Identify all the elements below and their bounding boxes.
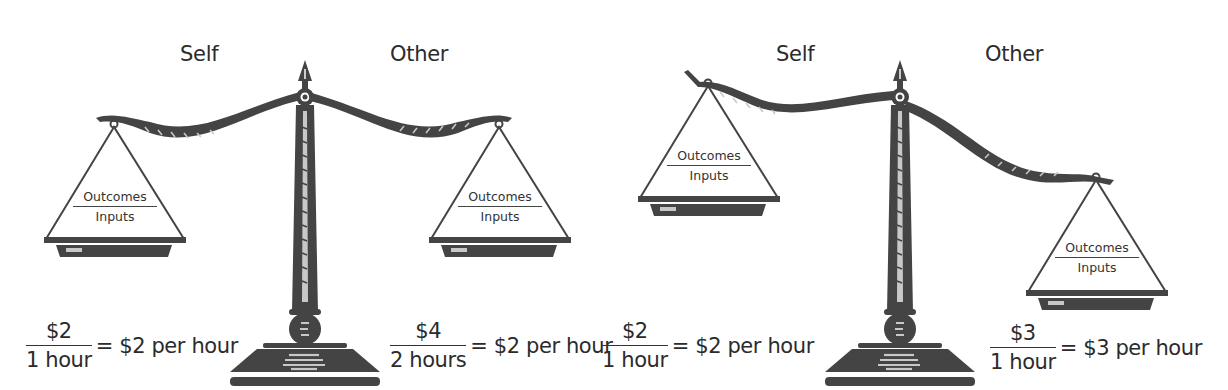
equation-fraction: $2 1 hour [602,318,668,373]
left-self-pan-ratio: Outcomes Inputs [73,189,157,224]
right-self-equation: $2 1 hour = $2 per hour [602,318,814,373]
left-other-equation: $4 2 hours = $2 per hour [390,318,612,373]
pan-denominator: Inputs [73,207,157,224]
pan-numerator: Outcomes [73,189,157,207]
equation-denominator: 2 hours [390,346,466,373]
left-scale-beam [96,92,300,138]
pan-numerator: Outcomes [667,148,751,166]
pan-numerator: Outcomes [1055,240,1139,258]
right-self-label: Self [776,42,814,66]
right-scale [825,60,975,386]
left-self-label: Self [180,42,218,66]
equation-result: = $2 per hour [672,334,814,358]
equation-denominator: 1 hour [602,346,668,373]
equation-fraction: $2 1 hour [26,318,92,373]
equation-fraction: $3 1 hour [990,320,1056,375]
equation-result: = $3 per hour [1060,336,1202,360]
right-self-pan-ratio: Outcomes Inputs [667,148,751,183]
pan-denominator: Inputs [667,166,751,183]
pan-numerator: Outcomes [458,189,542,207]
equation-result: = $2 per hour [96,334,238,358]
right-other-pan-ratio: Outcomes Inputs [1055,240,1139,275]
pan-denominator: Inputs [1055,258,1139,275]
left-self-equation: $2 1 hour = $2 per hour [26,318,238,373]
right-other-label: Other [985,42,1043,66]
left-other-pan-ratio: Outcomes Inputs [458,189,542,224]
equation-denominator: 1 hour [990,348,1056,375]
equation-result: = $2 per hour [470,334,612,358]
equation-numerator: $4 [390,318,466,346]
equation-fraction: $4 2 hours [390,318,466,373]
pan-denominator: Inputs [458,207,542,224]
equation-numerator: $2 [26,318,92,346]
equation-numerator: $3 [990,320,1056,348]
equation-numerator: $2 [602,318,668,346]
right-other-equation: $3 1 hour = $3 per hour [990,320,1202,375]
left-other-label: Other [390,42,448,66]
equation-denominator: 1 hour [26,346,92,373]
